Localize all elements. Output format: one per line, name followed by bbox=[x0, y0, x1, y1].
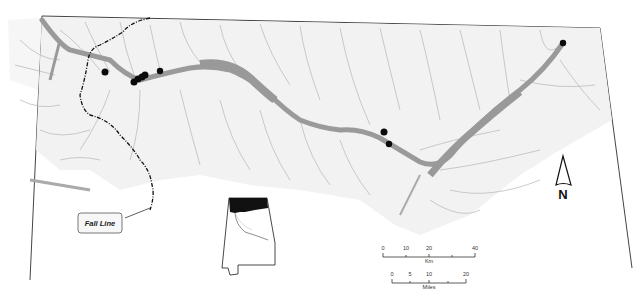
svg-text:0: 0 bbox=[381, 245, 384, 251]
fall-line-callout: Fall Line bbox=[78, 208, 150, 233]
north-arrow: N bbox=[556, 156, 571, 202]
svg-text:10: 10 bbox=[403, 245, 409, 251]
site-marker[interactable] bbox=[142, 72, 149, 79]
svg-text:0: 0 bbox=[390, 271, 393, 277]
scale-bar-km: 0 10 20 40 Km bbox=[381, 245, 478, 264]
svg-text:20: 20 bbox=[463, 271, 469, 277]
svg-text:10: 10 bbox=[426, 271, 432, 277]
svg-text:Miles: Miles bbox=[423, 284, 436, 290]
svg-text:Km: Km bbox=[425, 258, 434, 264]
site-marker[interactable] bbox=[386, 141, 392, 147]
map-canvas: Fall Line N 0 10 20 40 Km 0 5 10 20 bbox=[0, 0, 643, 303]
site-marker[interactable] bbox=[381, 129, 388, 136]
north-arrow-icon bbox=[556, 156, 571, 185]
svg-text:40: 40 bbox=[472, 245, 478, 251]
site-marker[interactable] bbox=[102, 69, 109, 76]
inset-state-map bbox=[222, 198, 275, 275]
site-marker[interactable] bbox=[560, 40, 566, 46]
svg-text:20: 20 bbox=[426, 245, 432, 251]
svg-text:5: 5 bbox=[408, 271, 411, 277]
site-marker[interactable] bbox=[157, 68, 163, 74]
north-label: N bbox=[558, 187, 567, 202]
fall-line-label: Fall Line bbox=[85, 219, 115, 228]
scale-bar-miles: 0 5 10 20 Miles bbox=[390, 271, 469, 290]
